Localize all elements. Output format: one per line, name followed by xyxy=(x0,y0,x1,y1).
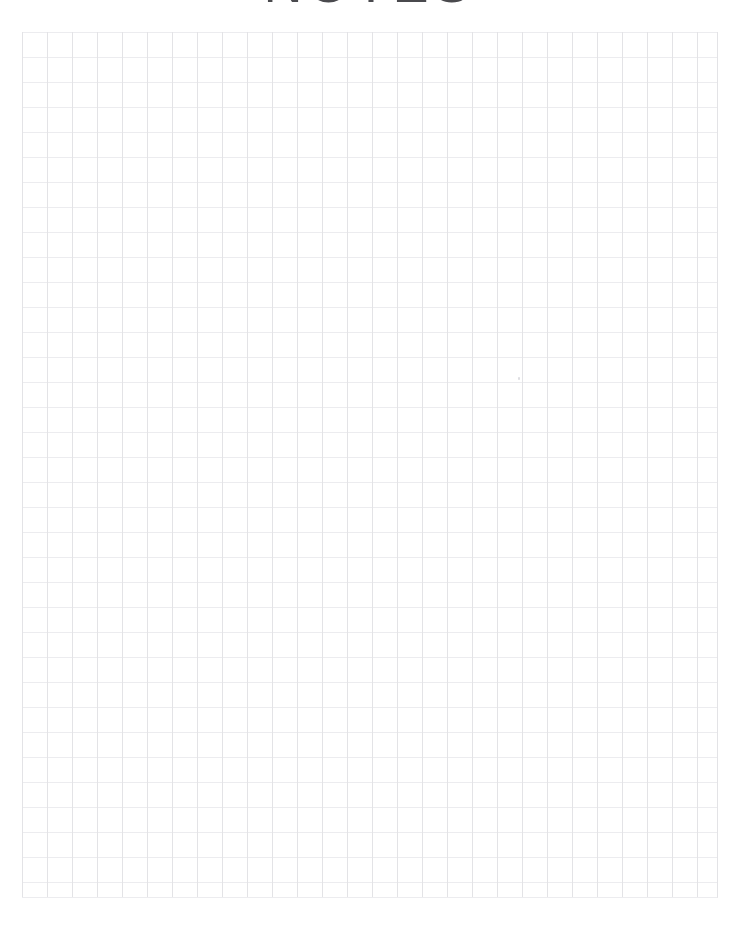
page-title: NOTES xyxy=(0,0,738,10)
graph-paper-grid xyxy=(22,32,718,898)
grid-border xyxy=(22,32,718,898)
print-speck xyxy=(518,377,520,380)
notes-page: NOTES xyxy=(0,0,738,927)
page-title-area: NOTES xyxy=(0,0,738,32)
